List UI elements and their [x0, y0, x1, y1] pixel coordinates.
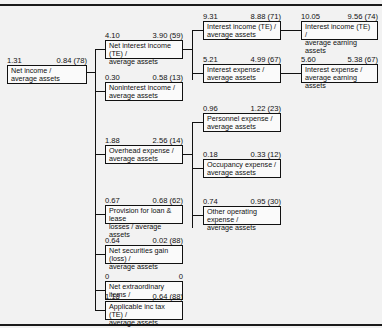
connector	[281, 30, 301, 31]
node-label: average earning assets	[305, 74, 374, 90]
node-label: Interest income (TE) /	[305, 23, 374, 39]
connector	[87, 72, 95, 73]
node-interest-expense-earning-assets: 5.605.38 (67) Interest expense /average …	[301, 55, 378, 83]
node-interest-income-earning-assets: 10.059.56 (74) Interest income (TE) /ave…	[301, 12, 378, 40]
connector	[192, 168, 203, 169]
connector	[183, 154, 192, 155]
connector	[183, 49, 192, 50]
node-occupancy-expense: 0.180.33 (12) Occupancy expense /average…	[203, 150, 281, 178]
connector	[95, 310, 105, 311]
connector	[95, 49, 96, 310]
top-rule	[0, 4, 382, 6]
connector	[192, 73, 203, 74]
connector	[95, 91, 105, 92]
connector	[95, 254, 105, 255]
connector	[192, 122, 193, 228]
node-label: average assets	[207, 31, 277, 39]
node-personnel-expense: 0.961.22 (23) Personnel expense /average…	[203, 104, 281, 132]
connector	[95, 290, 105, 291]
node-interest-expense: 5.214.99 (67) Interest expense /average …	[203, 55, 281, 83]
node-label: Applicable inc tax (TE) /	[109, 303, 179, 319]
node-net-income: 1.310.84 (78) Net income /average assets	[7, 56, 87, 82]
node-applicable-inc-tax: 1.180.64 (88) Applicable inc tax (TE) /a…	[105, 292, 183, 320]
node-label: average earning assets	[305, 39, 374, 55]
node-provision-loan-lease: 0.670.68 (62) Provision for loan & lease…	[105, 196, 183, 224]
node-overhead-expense: 1.882.56 (14) Overhead expense /average …	[105, 136, 183, 164]
node-label: Provision for loan & lease	[109, 207, 179, 223]
node-net-securities-gain: 0.640.02 (88) Net securities gain (loss)…	[105, 236, 183, 264]
node-label: average assets	[109, 155, 179, 163]
node-label: average assets	[207, 169, 277, 177]
node-label: average assets	[207, 224, 277, 232]
connector	[192, 122, 203, 123]
connector	[192, 30, 203, 31]
node-label: average assets	[109, 319, 179, 327]
node-noninterest-income: 0.300.58 (13) Noninterest income /averag…	[105, 73, 183, 101]
node-label: Other operating expense /	[207, 208, 277, 224]
node-label: Net securities gain (loss) /	[109, 247, 179, 263]
connector	[95, 214, 105, 215]
node-label: average assets	[109, 92, 179, 100]
connector	[281, 73, 301, 74]
connector	[95, 154, 105, 155]
node-label: average assets	[109, 58, 179, 66]
node-label: average assets	[11, 75, 83, 83]
node-other-operating-expense: 0.740.95 (30) Other operating expense /a…	[203, 197, 281, 225]
connector	[95, 49, 105, 50]
bottom-rule	[0, 324, 382, 326]
node-label: Net interest income (TE) /	[109, 42, 179, 58]
node-label: average assets	[109, 263, 179, 271]
connector	[192, 215, 203, 216]
node-label: average assets	[207, 123, 277, 131]
node-label: average assets	[207, 74, 277, 82]
node-interest-income: 9.318.88 (71) Interest income (TE) /aver…	[203, 12, 281, 40]
node-net-interest-income: 4.103.90 (59) Net interest income (TE) /…	[105, 31, 183, 59]
